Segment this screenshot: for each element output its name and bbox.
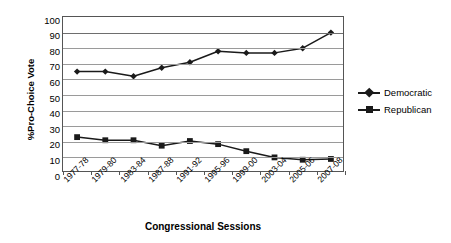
y-axis-tick-label: 50 bbox=[49, 94, 60, 104]
y-axis-title-wrap: %Pro-Choice Vote bbox=[14, 30, 30, 150]
gridline bbox=[63, 111, 343, 112]
series-line-republican bbox=[77, 137, 331, 160]
gridline bbox=[63, 95, 343, 96]
series-line-democratic bbox=[77, 33, 331, 77]
data-point[interactable] bbox=[74, 134, 80, 140]
y-axis-tick-label: 30 bbox=[49, 125, 60, 135]
legend-label: Democratic bbox=[380, 88, 432, 98]
data-point[interactable] bbox=[271, 50, 277, 56]
data-point[interactable] bbox=[74, 68, 80, 74]
x-axis-tick-labels: 1977-781979-801983-841987-881991-921995-… bbox=[0, 172, 360, 216]
chart-container: %Pro-Choice Vote 1009080706050403020100 … bbox=[0, 0, 451, 243]
data-point[interactable] bbox=[159, 65, 165, 71]
gridline bbox=[63, 157, 343, 158]
y-axis-tick-label: 80 bbox=[49, 47, 60, 57]
legend-item-republican[interactable]: Republican bbox=[358, 101, 450, 118]
y-axis-tick-label: 40 bbox=[49, 109, 60, 119]
gridline bbox=[63, 126, 343, 127]
y-axis-tick-label: 10 bbox=[49, 156, 60, 166]
diamond-marker-icon bbox=[358, 87, 380, 99]
chart-legend: Democratic Republican bbox=[358, 84, 450, 118]
gridline bbox=[63, 64, 343, 65]
data-point[interactable] bbox=[102, 68, 108, 74]
y-axis-tick-label: 60 bbox=[49, 78, 60, 88]
y-axis-tick-label: 100 bbox=[44, 16, 60, 26]
y-axis-tick-labels: 1009080706050403020100 bbox=[30, 10, 60, 178]
plot-area bbox=[62, 16, 344, 172]
data-point[interactable] bbox=[243, 50, 249, 56]
data-point[interactable] bbox=[243, 148, 249, 154]
gridline bbox=[63, 79, 343, 80]
y-axis-tick-label: 70 bbox=[49, 62, 60, 72]
gridline bbox=[63, 33, 343, 34]
square-marker-icon bbox=[358, 104, 380, 116]
legend-label: Republican bbox=[380, 105, 432, 115]
x-axis-title: Congressional Sessions bbox=[62, 221, 344, 232]
gridline bbox=[63, 48, 343, 49]
y-axis-tick-label: 20 bbox=[49, 140, 60, 150]
y-axis-tick-label: 90 bbox=[49, 31, 60, 41]
data-point[interactable] bbox=[159, 143, 165, 149]
legend-item-democratic[interactable]: Democratic bbox=[358, 84, 450, 101]
gridline bbox=[63, 142, 343, 143]
